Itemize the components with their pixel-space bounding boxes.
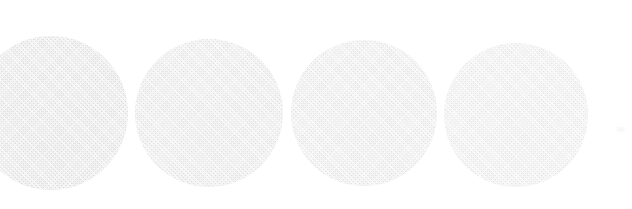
circle-1-texture	[0, 36, 128, 190]
circle-3-texture	[291, 40, 437, 186]
circle-4	[444, 43, 588, 187]
circle-2	[135, 39, 283, 187]
circle-2-texture	[135, 39, 283, 187]
scan-page	[0, 0, 632, 209]
circle-3	[291, 40, 437, 186]
circle-4-texture	[444, 43, 588, 187]
scan-speck	[616, 127, 625, 132]
circle-1	[0, 36, 128, 190]
